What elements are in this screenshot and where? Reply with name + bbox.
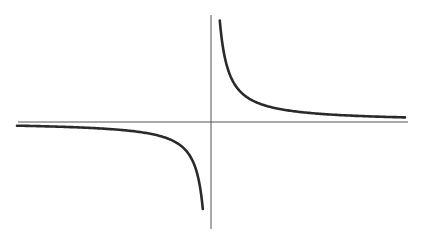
- curve-left-branch: [17, 126, 203, 209]
- curve-right-branch: [220, 21, 405, 118]
- hyperbola-plot: [0, 0, 426, 244]
